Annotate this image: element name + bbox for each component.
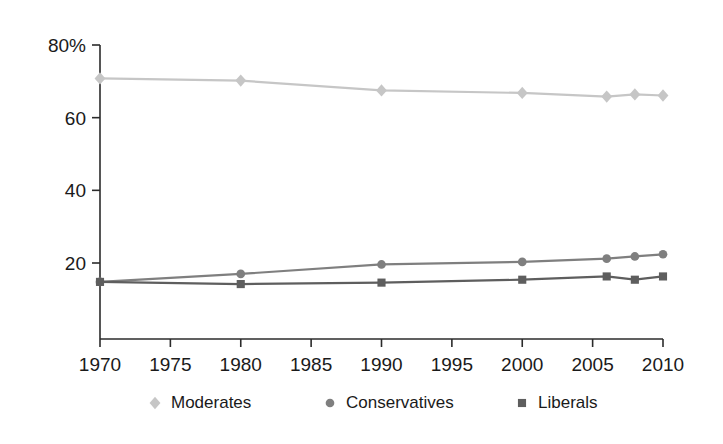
data-point-marker (376, 84, 387, 96)
data-point-marker (377, 260, 386, 269)
y-tick-label: 80% (48, 35, 86, 56)
data-point-marker (518, 258, 527, 267)
data-point-marker (95, 72, 106, 84)
x-tick-label: 2000 (501, 354, 543, 375)
data-point-marker (601, 90, 612, 102)
diamond-marker-icon (150, 397, 161, 409)
data-point-marker (518, 276, 526, 284)
series-moderates (95, 72, 669, 102)
x-tick-label: 1975 (149, 354, 191, 375)
data-point-marker (631, 252, 640, 261)
data-point-marker (235, 74, 246, 86)
x-tick-label: 1995 (431, 354, 473, 375)
y-tick-label: 20 (65, 253, 86, 274)
legend: ModeratesConservativesLiberals (150, 393, 598, 412)
line-chart: 20406080% 197019751980198519901995200020… (0, 0, 723, 444)
legend-label: Conservatives (346, 393, 454, 412)
x-tick-label: 1980 (220, 354, 262, 375)
square-marker-icon (518, 399, 526, 407)
data-point-marker (603, 272, 611, 280)
x-tick-label: 1970 (79, 354, 121, 375)
x-tick-group: 197019751980198519901995200020052010 (79, 339, 684, 375)
data-point-marker (236, 270, 245, 279)
legend-label: Moderates (171, 393, 251, 412)
data-point-marker (629, 88, 640, 100)
data-point-marker (631, 276, 639, 284)
x-tick-label: 1990 (360, 354, 402, 375)
series-liberals (96, 272, 667, 288)
y-axis-group: 20406080% (48, 35, 100, 339)
y-tick-label: 60 (65, 108, 86, 129)
x-tick-label: 1985 (290, 354, 332, 375)
legend-label: Liberals (538, 393, 598, 412)
data-series-group (95, 72, 669, 288)
y-tick-group: 20406080% (48, 35, 100, 274)
y-tick-label: 40 (65, 180, 86, 201)
data-point-marker (377, 279, 385, 287)
x-tick-label: 2010 (642, 354, 684, 375)
data-point-marker (659, 250, 668, 259)
data-point-marker (658, 89, 669, 101)
data-point-marker (517, 87, 528, 99)
data-point-marker (237, 280, 245, 288)
x-axis-group: 197019751980198519901995200020052010 (79, 339, 684, 375)
data-point-marker (602, 254, 611, 263)
data-point-marker (96, 278, 104, 286)
circle-marker-icon (326, 399, 335, 408)
x-tick-label: 2005 (571, 354, 613, 375)
data-point-marker (659, 272, 667, 280)
chart-canvas: 20406080% 197019751980198519901995200020… (0, 0, 723, 444)
